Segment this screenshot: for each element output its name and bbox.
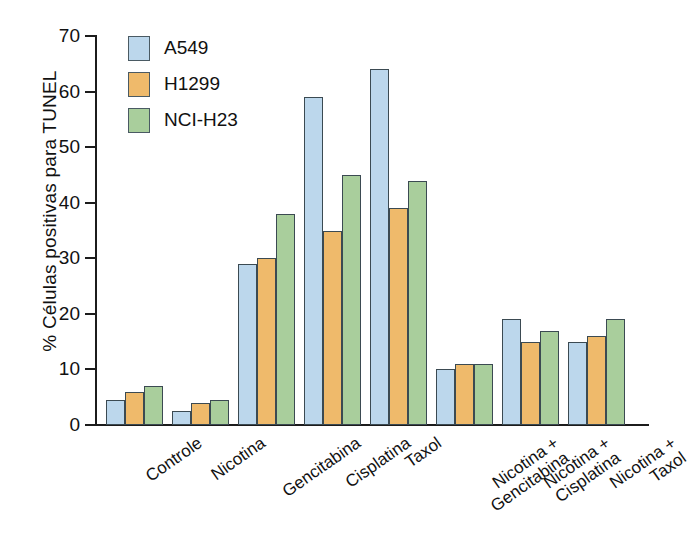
bar	[238, 264, 257, 425]
bar	[474, 364, 493, 425]
bar	[106, 400, 125, 425]
x-category-label: Nicotina + Taxol	[606, 434, 689, 507]
bar	[210, 400, 229, 425]
y-tick-20	[85, 313, 96, 315]
bar	[540, 331, 559, 425]
y-tick-30	[85, 257, 96, 259]
y-tick-70	[85, 35, 96, 37]
bar	[587, 336, 606, 425]
y-tick-label-60: 60	[59, 82, 80, 101]
y-axis-title: % Células positivas para TUNEL	[39, 11, 61, 411]
y-tick-50	[85, 146, 96, 148]
y-tick-60	[85, 91, 96, 93]
bar	[408, 181, 427, 426]
bar	[172, 411, 191, 425]
y-tick-label-70: 70	[59, 26, 80, 45]
y-tick-label-0: 0	[69, 415, 80, 434]
y-tick-40	[85, 202, 96, 204]
y-tick-10	[85, 368, 96, 370]
y-tick-label-20: 20	[59, 304, 80, 323]
y-tick-label-50: 50	[59, 137, 80, 156]
bar	[125, 392, 144, 425]
bar	[144, 386, 163, 425]
bar	[257, 258, 276, 425]
x-category-label: Gencitabina	[279, 434, 364, 501]
bar	[502, 319, 521, 425]
x-category-label: Nicotina	[208, 434, 269, 484]
bar	[436, 369, 455, 425]
plot-area	[96, 36, 647, 425]
y-tick-label-40: 40	[59, 193, 80, 212]
bar	[323, 231, 342, 426]
bar	[606, 319, 625, 425]
bar	[304, 97, 323, 425]
bar	[455, 364, 474, 425]
bar	[191, 403, 210, 425]
bar	[276, 214, 295, 425]
y-tick-label-10: 10	[59, 359, 80, 378]
bar	[568, 342, 587, 425]
x-category-label: Controle	[142, 434, 205, 485]
bar	[389, 208, 408, 425]
y-tick-label-30: 30	[59, 248, 80, 267]
bar	[370, 69, 389, 425]
bar	[521, 342, 540, 425]
bar	[342, 175, 361, 425]
y-tick-0	[85, 424, 96, 426]
